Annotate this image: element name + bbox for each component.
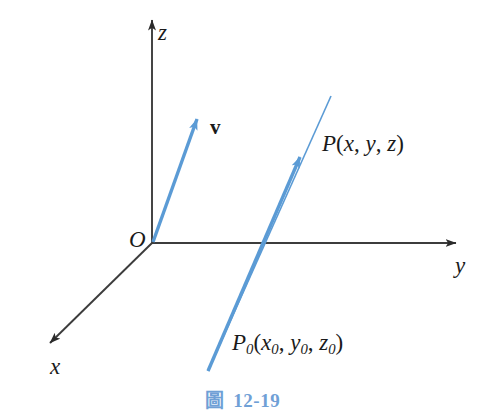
point-p-x: x [344,131,354,156]
point-p-name: P [322,131,336,156]
point-p-label: P(x, y, z) [322,132,404,155]
point-p0-z-subscript: 0 [328,341,335,357]
figure-caption-symbol: 圖 [205,390,225,411]
point-p-comma-2: , [376,131,388,156]
point-p0-label: P0(x0, y0, z0) [232,331,343,357]
x-axis-label: x [50,355,60,378]
point-p0-close-paren: ) [336,330,344,355]
point-p-comma-1: , [354,131,366,156]
point-p-close-paren: ) [396,131,404,156]
origin-label: O [129,228,146,251]
y-axis-label: y [455,254,465,277]
figure-caption-number: 12-19 [233,390,280,411]
z-axis-label: z [158,21,167,44]
vector-v-label: v [210,117,221,138]
figure-caption: 圖12-19 [0,385,485,412]
point-p0-name: P [232,330,246,355]
point-p0-z: z [319,330,328,355]
point-p0-open-paren: ( [253,330,261,355]
figure-12-19: z y x O v P(x, y, z) P0(x0, y0, z0) 圖12-… [0,0,485,418]
point-p-open-paren: ( [336,131,344,156]
point-p0-x: x [261,330,271,355]
point-p0-comma-1: , [279,330,291,355]
vector-v-arrow [153,119,197,242]
point-p-z: z [387,131,396,156]
point-p0-comma-2: , [308,330,320,355]
point-p0-y-subscript: 0 [300,341,307,357]
x-axis [50,243,152,343]
point-p-y: y [365,131,375,156]
point-p0-x-subscript: 0 [271,341,278,357]
point-p0-y: y [290,330,300,355]
